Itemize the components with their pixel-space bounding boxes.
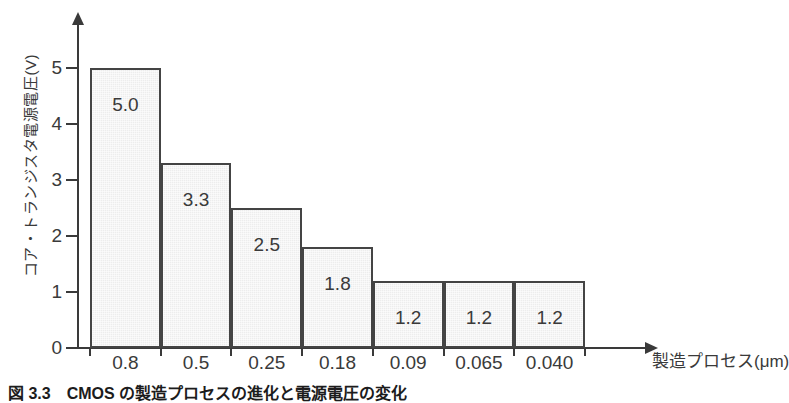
figure-caption: 図 3.3 CMOS の製造プロセスの進化と電源電圧の変化 — [8, 384, 407, 403]
bar-value-label: 1.2 — [373, 308, 444, 327]
bar — [231, 208, 302, 348]
bar-value-label: 1.2 — [514, 308, 585, 327]
x-tick-label: 0.5 — [161, 353, 232, 373]
x-tick-label: 0.25 — [231, 353, 302, 373]
x-axis-title: 製造プロセス(μm) — [652, 352, 789, 372]
x-tick-label: 0.040 — [514, 353, 585, 373]
bar-value-label: 1.2 — [444, 308, 515, 327]
x-tick-label: 0.8 — [90, 353, 161, 373]
x-tick-label: 0.09 — [373, 353, 444, 373]
bar-value-label: 1.8 — [302, 274, 373, 293]
bar — [302, 247, 373, 348]
x-tick-label: 0.065 — [444, 353, 515, 373]
bar-value-label: 3.3 — [161, 190, 232, 209]
bar-value-label: 5.0 — [90, 95, 161, 114]
bar-value-label: 2.5 — [231, 235, 302, 254]
x-tick-label: 0.18 — [302, 353, 373, 373]
